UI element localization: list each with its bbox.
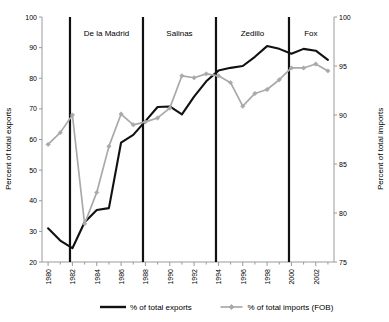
y-tick-label-right: 85 bbox=[339, 161, 347, 168]
series-line-imports bbox=[48, 64, 328, 224]
y-tick-label-right: 95 bbox=[339, 63, 347, 70]
y-tick-label-left: 100 bbox=[25, 14, 37, 21]
chart-legend: % of total exports% of total imports (FO… bbox=[100, 303, 334, 312]
y-tick-label-left: 20 bbox=[29, 259, 37, 266]
data-point-marker bbox=[107, 144, 111, 148]
y-tick-label-left: 60 bbox=[29, 136, 37, 143]
x-tick-label: 1982 bbox=[69, 269, 76, 285]
y-tick-label-right: 100 bbox=[339, 14, 351, 21]
y-tick-label-left: 70 bbox=[29, 105, 37, 112]
y-axis-right: 7580859095100 bbox=[334, 14, 351, 266]
y-tick-label-left: 90 bbox=[29, 44, 37, 51]
y-tick-label-right: 80 bbox=[339, 210, 347, 217]
y-tick-label-right: 90 bbox=[339, 112, 347, 119]
line-chart: Percent of total exports Percent of tota… bbox=[0, 0, 389, 322]
x-tick-label: 1998 bbox=[264, 269, 271, 285]
data-point-marker bbox=[301, 66, 305, 70]
y-tick-label-left: 30 bbox=[29, 228, 37, 235]
data-series bbox=[46, 46, 330, 248]
data-point-marker bbox=[204, 72, 208, 76]
x-tick-label: 2000 bbox=[288, 269, 295, 285]
chart-container: Percent of total exports Percent of tota… bbox=[0, 0, 389, 322]
era-label: De la Madrid bbox=[84, 29, 129, 38]
era-label: Salinas bbox=[166, 29, 192, 38]
x-tick-label: 1986 bbox=[118, 269, 125, 285]
x-axis: 1980198219841986198819901992199419961998… bbox=[42, 262, 334, 285]
legend-label: % of total imports (FOB) bbox=[248, 303, 334, 312]
x-tick-label: 1984 bbox=[94, 269, 101, 285]
x-tick-label: 1980 bbox=[45, 269, 52, 285]
y-axis-left: 2030405060708090100 bbox=[25, 14, 42, 266]
y-tick-label-left: 80 bbox=[29, 75, 37, 82]
y-tick-label-left: 50 bbox=[29, 167, 37, 174]
era-labels: De la MadridSalinasZedilloFox bbox=[84, 29, 318, 38]
legend-marker-imports bbox=[229, 305, 234, 310]
x-tick-label: 2002 bbox=[313, 269, 320, 285]
x-tick-label: 1992 bbox=[191, 269, 198, 285]
y-tick-label-left: 40 bbox=[29, 197, 37, 204]
y-tick-label-right: 75 bbox=[339, 259, 347, 266]
data-point-marker bbox=[180, 74, 184, 78]
x-tick-label: 1996 bbox=[240, 269, 247, 285]
y-axis-title-right: Percent of total imports bbox=[376, 108, 385, 190]
x-tick-label: 1994 bbox=[215, 269, 222, 285]
data-point-marker bbox=[95, 190, 99, 194]
data-point-marker bbox=[192, 76, 196, 80]
x-tick-label: 1988 bbox=[142, 269, 149, 285]
era-label: Fox bbox=[304, 29, 317, 38]
legend-label: % of total exports bbox=[130, 303, 192, 312]
x-tick-label: 1990 bbox=[167, 269, 174, 285]
y-axis-title-left: Percent of total exports bbox=[4, 108, 13, 190]
era-dividers bbox=[70, 17, 289, 262]
era-label: Zedillo bbox=[241, 29, 265, 38]
